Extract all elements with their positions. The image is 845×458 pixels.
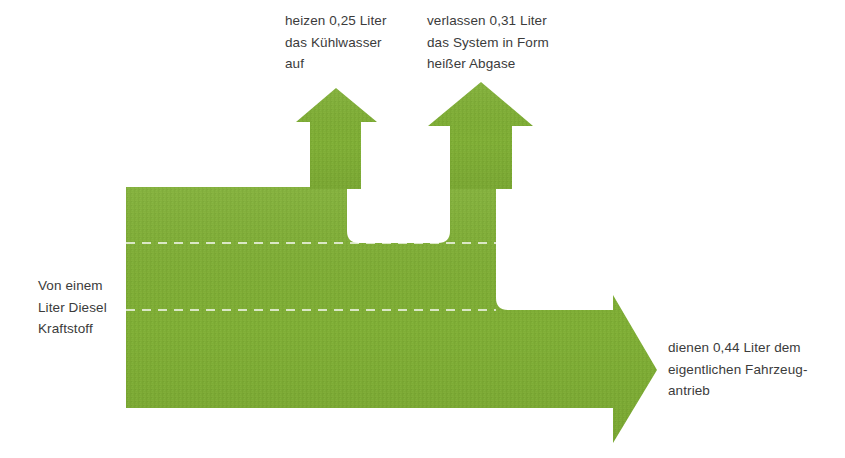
label-source-fuel: Von einem Liter Diesel Kraftstoff	[38, 275, 148, 340]
arrow-exhaust-shading	[428, 82, 533, 189]
label-drive-flow: dienen 0,44 Liter dem eigentlichen Fahrz…	[668, 337, 833, 402]
arrow-coolant-up	[296, 88, 377, 189]
arrow-exhaust-up	[428, 82, 533, 189]
arrow-coolant-shading	[296, 88, 377, 189]
label-coolant-flow: heizen 0,25 Liter das Kühlwasser auf	[285, 10, 420, 75]
label-exhaust-flow: verlassen 0,31 Liter das System in Form …	[427, 10, 577, 75]
flow-body-group	[126, 187, 657, 443]
energy-flow-diagram: heizen 0,25 Liter das Kühlwasser auf ver…	[0, 0, 845, 458]
main-trunk-shading	[126, 187, 657, 443]
